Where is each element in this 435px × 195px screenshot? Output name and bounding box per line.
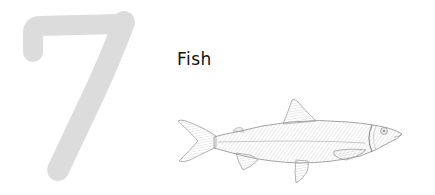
- numeral-seven-icon: [0, 0, 150, 195]
- flashcard: Fish: [0, 0, 435, 195]
- fish-illustration-icon: [170, 90, 410, 190]
- title: Fish: [177, 48, 212, 70]
